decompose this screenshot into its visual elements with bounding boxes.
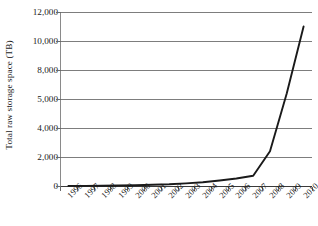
x-tick-mark: [60, 187, 61, 191]
y-tick-mark: [56, 70, 61, 71]
y-tick-label: 5,000: [14, 94, 58, 104]
y-tick-mark: [56, 41, 61, 42]
chart-figure: Total raw storage space (TB) 02,0004,000…: [0, 0, 318, 226]
y-tick-label: 0: [14, 181, 58, 191]
y-tick-mark: [56, 157, 61, 158]
y-tick-label: 8,000: [14, 65, 58, 75]
y-tick-mark: [56, 12, 61, 13]
data-series-line: [60, 12, 312, 187]
y-tick-label: 12,000: [14, 7, 58, 17]
y-tick-label: 2,000: [14, 152, 58, 162]
y-axis-tick-labels: 02,0004,0005,0008,00010,00012,000: [12, 0, 58, 226]
y-tick-label: 10,000: [14, 36, 58, 46]
y-tick-label: 4,000: [14, 123, 58, 133]
y-tick-mark: [56, 128, 61, 129]
y-tick-mark: [56, 99, 61, 100]
